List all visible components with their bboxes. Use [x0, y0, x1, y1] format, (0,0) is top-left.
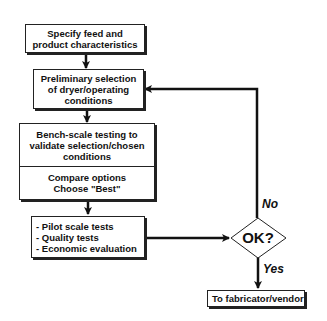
step-text: - Quality tests	[36, 232, 144, 243]
step-text: of dryer/operating	[34, 84, 143, 95]
step-text: Specify feed and	[26, 28, 144, 39]
step-to-fabricator: To fabricator/vendor	[207, 290, 305, 307]
step-text: conditions	[34, 95, 143, 106]
branch-no-label: No	[262, 197, 278, 211]
step-text: Compare options	[20, 172, 154, 183]
arrow-no-feedback	[145, 89, 257, 218]
step-text: - Economic evaluation	[36, 243, 144, 254]
step-preliminary-selection: Preliminary selection of dryer/operating…	[33, 69, 144, 109]
step-text: product characteristics	[26, 39, 144, 50]
step-compare-options: Compare options Choose "Best"	[20, 166, 154, 199]
step-text: Choose "Best"	[20, 183, 154, 194]
step-bench-compare: Bench-scale testing to validate selectio…	[19, 123, 155, 200]
step-text: conditions	[20, 151, 154, 162]
step-text: Bench-scale testing to	[20, 129, 154, 140]
step-pilot-tests: - Pilot scale tests - Quality tests - Ec…	[31, 216, 145, 258]
step-text: To fabricator/vendor	[212, 293, 304, 304]
step-text: - Pilot scale tests	[36, 221, 144, 232]
step-bench-scale: Bench-scale testing to validate selectio…	[20, 124, 154, 166]
step-text: validate selection/chosen	[20, 140, 154, 151]
step-specify-feed: Specify feed and product characteristics	[25, 24, 145, 53]
branch-yes-label: Yes	[263, 262, 284, 276]
step-text: Preliminary selection	[34, 73, 143, 84]
decision-label: OK?	[238, 229, 278, 246]
